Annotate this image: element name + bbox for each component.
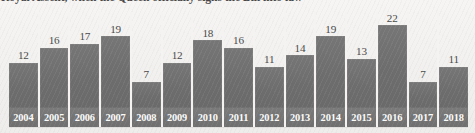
- year-axis-label: 2016: [382, 113, 402, 123]
- bar-column: 72017: [409, 12, 440, 127]
- bar-value-label: 7: [409, 69, 438, 82]
- bar-column: 122004: [9, 12, 40, 127]
- bar: [286, 55, 315, 108]
- bar-column: 162011: [224, 12, 255, 127]
- bar-column: 172006: [70, 12, 101, 127]
- bar: [255, 67, 284, 109]
- year-axis-label: 2008: [136, 113, 156, 123]
- caption-clip-region: Royal Assent, when the Queen officially …: [0, 0, 475, 7]
- figure-caption: Royal Assent, when the Queen officially …: [1, 0, 302, 4]
- bar-value-label: 18: [193, 28, 222, 41]
- bar: [163, 63, 192, 108]
- chart-plot-area: 1220041620051720061920077200812200918201…: [9, 12, 468, 127]
- year-axis-cell: 2018: [439, 108, 468, 127]
- year-axis-label: 2018: [444, 113, 464, 123]
- bar: [40, 48, 69, 108]
- year-axis-label: 2006: [75, 113, 95, 123]
- bar-value-label: 19: [101, 24, 130, 37]
- bar-value-label: 7: [132, 69, 161, 82]
- bar: [224, 48, 253, 108]
- year-axis-cell: 2006: [70, 108, 99, 127]
- bar-value-label: 12: [163, 50, 192, 63]
- bar-column: 192007: [101, 12, 132, 127]
- bar-value-label: 16: [224, 35, 253, 48]
- year-axis-cell: 2005: [40, 108, 69, 127]
- bar: [101, 36, 130, 108]
- year-axis-label: 2005: [44, 113, 64, 123]
- bar-value-label: 11: [255, 54, 284, 67]
- year-axis-cell: 2008: [132, 108, 161, 127]
- bar-column: 132015: [347, 12, 378, 127]
- year-axis-label: 2011: [229, 113, 249, 123]
- bar-column: 142013: [286, 12, 317, 127]
- bar: [439, 67, 468, 109]
- bar-column: 112018: [439, 12, 468, 127]
- bar: [316, 36, 345, 108]
- bar-value-label: 11: [439, 54, 468, 67]
- bar: [409, 82, 438, 108]
- bar-column: 162005: [40, 12, 71, 127]
- year-axis-label: 2012: [259, 113, 279, 123]
- year-axis-cell: 2011: [224, 108, 253, 127]
- year-axis-label: 2010: [198, 113, 218, 123]
- bar: [132, 82, 161, 108]
- year-axis-label: 2014: [321, 113, 341, 123]
- year-axis-cell: 2012: [255, 108, 284, 127]
- year-axis-label: 2007: [105, 113, 125, 123]
- bar: [9, 63, 38, 108]
- bar-column: 182010: [193, 12, 224, 127]
- year-axis-label: 2013: [290, 113, 310, 123]
- bar-chart-figure: Royal Assent, when the Queen officially …: [0, 0, 475, 133]
- bar: [70, 44, 99, 108]
- bar-column: 112012: [255, 12, 286, 127]
- bar-value-label: 19: [316, 24, 345, 37]
- year-axis-cell: 2007: [101, 108, 130, 127]
- year-axis-cell: 2014: [316, 108, 345, 127]
- bar-column: 222016: [378, 12, 409, 127]
- year-axis-label: 2009: [167, 113, 187, 123]
- bar-value-label: 22: [378, 13, 407, 26]
- year-axis-label: 2004: [13, 113, 33, 123]
- bar: [347, 59, 376, 108]
- bar: [193, 40, 222, 108]
- year-axis-cell: 2004: [9, 108, 38, 127]
- bar-column: 192014: [316, 12, 347, 127]
- year-axis-cell: 2017: [409, 108, 438, 127]
- year-axis-cell: 2009: [163, 108, 192, 127]
- year-axis-cell: 2013: [286, 108, 315, 127]
- year-axis-label: 2017: [413, 113, 433, 123]
- bar-column: 72008: [132, 12, 163, 127]
- bar-value-label: 13: [347, 46, 376, 59]
- year-axis-label: 2015: [351, 113, 371, 123]
- chart-baseline: [9, 127, 468, 128]
- bar-value-label: 16: [40, 35, 69, 48]
- bar-value-label: 17: [70, 31, 99, 44]
- bar-columns-container: 1220041620051720061920077200812200918201…: [9, 12, 468, 127]
- bar-value-label: 14: [286, 43, 315, 56]
- bar-column: 122009: [163, 12, 194, 127]
- bar-value-label: 12: [9, 50, 38, 63]
- year-axis-cell: 2010: [193, 108, 222, 127]
- bar: [378, 25, 407, 108]
- year-axis-cell: 2015: [347, 108, 376, 127]
- year-axis-cell: 2016: [378, 108, 407, 127]
